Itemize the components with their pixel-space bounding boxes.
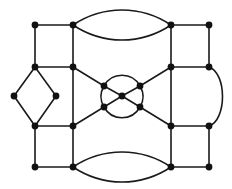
node-bl4	[70, 164, 77, 171]
node-bl3	[32, 164, 39, 171]
edge-tl3-dR-straight	[35, 67, 56, 96]
edge-bl4-br3-curve-down	[73, 167, 171, 182]
node-dL	[11, 93, 18, 100]
node-tl3	[32, 64, 39, 71]
node-c3	[101, 104, 108, 111]
node-tr1	[168, 22, 175, 29]
nodes-layer	[11, 22, 213, 171]
node-br2	[206, 123, 213, 130]
node-bl1	[32, 123, 39, 130]
node-c0	[119, 93, 126, 100]
edge-c4-c3-circle-arc	[104, 107, 140, 118]
edge-tr3-c2-straight	[140, 67, 171, 86]
edge-bl1-dR-straight	[35, 96, 56, 126]
edges-layer	[14, 10, 223, 182]
edge-c1-c2-circle-arc	[104, 75, 140, 86]
node-tl1	[32, 22, 39, 29]
edge-tl2-tr1-curve-up	[73, 10, 171, 25]
node-tr2	[206, 22, 213, 29]
edge-br1-c4-straight	[140, 107, 171, 126]
edge-tr4-br2-curve-right	[209, 67, 223, 126]
edge-bl2-c3-straight	[73, 107, 104, 126]
edge-tl3-dL-straight	[14, 67, 35, 96]
node-dR	[53, 93, 60, 100]
edge-bl4-br3-curve-up	[73, 152, 171, 167]
node-br1	[168, 123, 175, 130]
node-tl4	[70, 64, 77, 71]
edge-tl2-tr1-curve-down	[73, 25, 171, 40]
node-tr3	[168, 64, 175, 71]
edge-bl1-dL-straight	[14, 96, 35, 126]
node-br3	[168, 164, 175, 171]
graph-diagram	[0, 0, 232, 189]
node-tr4	[206, 64, 213, 71]
edge-tl4-c1-straight	[73, 67, 104, 86]
node-tl2	[70, 22, 77, 29]
node-c2	[137, 83, 144, 90]
node-c4	[137, 104, 144, 111]
node-br4	[206, 164, 213, 171]
node-bl2	[70, 123, 77, 130]
node-c1	[101, 83, 108, 90]
